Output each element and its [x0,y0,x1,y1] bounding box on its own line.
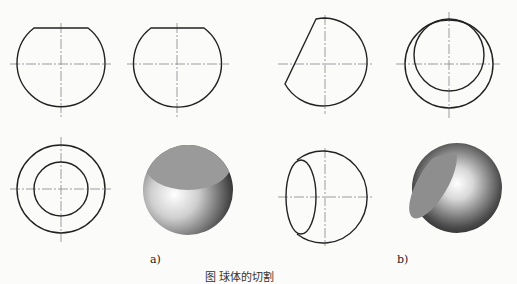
a-side-view [134,28,222,107]
a-3d-cut-face [145,140,231,190]
panel-label-a: a) [150,253,161,266]
b-3d-model [400,141,502,233]
a-3d-model [143,140,233,235]
b-front-view [285,18,367,106]
panel-label-b: b) [397,253,408,266]
figure-caption: 图 球体的切割 [205,268,275,284]
